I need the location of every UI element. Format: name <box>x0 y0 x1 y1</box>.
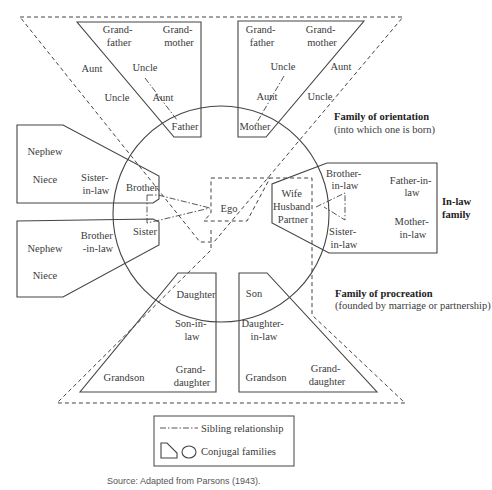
son-label: Son <box>246 288 263 299</box>
inlaw-family-heading: In-law family <box>442 196 474 220</box>
spouse-label: Wife Husband Partner <box>273 188 313 225</box>
mother-uncle-inner-label: Uncle <box>270 61 295 72</box>
sibling-line-brother-ego <box>147 195 210 208</box>
father-aunt-inner-label: Aunt <box>153 92 174 103</box>
father-label: Father <box>172 121 199 132</box>
mother-label: Mother <box>240 121 271 132</box>
son-granddaughter-label: Grand- daughter <box>309 363 346 387</box>
daughter-label: Daughter <box>176 289 216 300</box>
father-aunt-outer-label: Aunt <box>82 63 103 74</box>
father-uncle-inner-label: Uncle <box>132 62 157 73</box>
daughter-grandson-label: Grandson <box>104 372 146 383</box>
ego-label: Ego <box>221 203 238 214</box>
mother-grandmother-label: Grand- mother <box>306 24 338 48</box>
brother-label: Brother <box>126 182 159 193</box>
son-grandson-label: Grandson <box>246 372 288 383</box>
father-grandmother-label: Grand- mother <box>163 24 195 48</box>
mother-grandfather-label: Grand- father <box>246 24 278 48</box>
kinship-diagram: Grand- father Grand- mother Aunt Uncle U… <box>0 0 492 490</box>
legend: Sibling relationship Conjugal families <box>154 416 294 466</box>
father-uncle-outer-label: Uncle <box>104 92 129 103</box>
sister-nephew-label: Nephew <box>28 243 63 254</box>
family-of-procreation-heading: Family of procreation <box>335 288 433 299</box>
sibling-line-inlaw <box>316 193 345 220</box>
father-in-law-label: Father-in- law <box>390 175 434 198</box>
son-in-law-label: Son-in- law <box>175 318 209 342</box>
source-note: Source: Adapted from Parsons (1943). <box>107 476 261 486</box>
daughter-in-law-label: Daughter- in-law <box>242 318 287 342</box>
ego-box <box>204 178 270 221</box>
family-of-procreation-subheading: (founded by marriage or partnership) <box>335 300 491 312</box>
brother-in-law-label: Brother- in-law <box>326 168 364 191</box>
mother-in-law-label: Mother- in-law <box>395 216 432 240</box>
sister-label: Sister <box>133 226 157 237</box>
sister-spouse-label: Brother -in-law <box>81 230 116 254</box>
daughter-granddaughter-label: Grand- daughter <box>174 364 211 388</box>
brother-niece-label: Niece <box>33 174 58 185</box>
legend-sibling-relationship: Sibling relationship <box>201 423 284 434</box>
family-of-orientation-subheading: (into which one is born) <box>334 124 435 136</box>
legend-conjugal-families: Conjugal families <box>201 446 276 457</box>
family-of-orientation-heading: Family of orientation <box>334 111 429 122</box>
sister-niece-label: Niece <box>33 270 58 281</box>
father-grandfather-label: Grand- father <box>103 24 135 48</box>
sister-in-law-label: Sister- in-law <box>329 226 359 250</box>
mother-aunt-inner-label: Aunt <box>257 91 278 102</box>
mother-aunt-outer-label: Aunt <box>331 61 352 72</box>
brother-nephew-label: Nephew <box>28 146 63 157</box>
mother-uncle-outer-label: Uncle <box>307 91 332 102</box>
brother-spouse-label: Sister- in-law <box>81 172 111 196</box>
sibling-line-sister-ego <box>147 195 210 223</box>
